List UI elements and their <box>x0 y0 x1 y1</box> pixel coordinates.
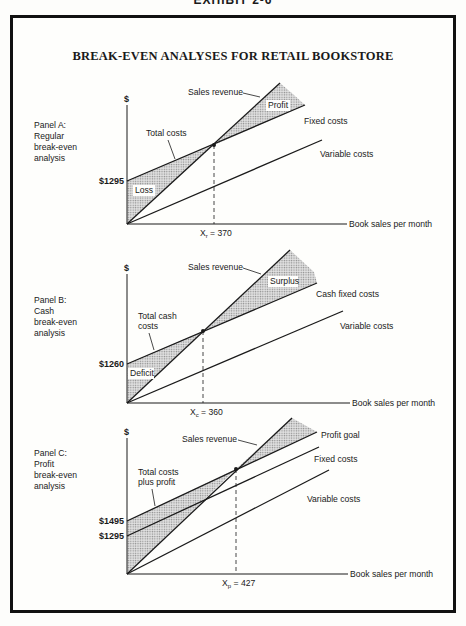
break-even-label: Xc = 360 <box>190 407 223 418</box>
panel-c-label-4: analysis <box>34 481 65 491</box>
panel-b: Panel B: Cash break-even analysis $ Book… <box>34 250 435 418</box>
panel-a-label-3: break-even <box>34 142 77 152</box>
x-axis-label: Book sales per month <box>349 219 432 229</box>
total-cash-costs-label-1: Total cash <box>138 311 177 321</box>
sales-revenue-label: Sales revenue <box>182 434 237 444</box>
y-intercept-label: $1295 <box>99 176 124 186</box>
y-intercept-label-profit: $1495 <box>99 516 124 526</box>
excess-region <box>236 418 317 469</box>
x-axis-label: Book sales per month <box>352 398 435 408</box>
fixed-costs-label: Fixed costs <box>314 454 357 464</box>
break-even-label: Xr = 370 <box>200 228 232 239</box>
sales-revenue-label: Sales revenue <box>188 87 243 97</box>
loss-region-label: Loss <box>135 185 153 195</box>
panel-a-label-2: Regular <box>34 131 64 141</box>
panel-b-label-3: break-even <box>34 317 77 327</box>
panel-b-label-2: Cash <box>34 306 54 316</box>
profit-region-label: Profit <box>268 100 289 110</box>
panel-b-label-1: Panel B: <box>34 295 67 305</box>
surplus-region-label: Surplus <box>270 276 299 286</box>
total-costs-plus-profit-label-1: Total costs <box>138 467 179 477</box>
variable-costs-label: Variable costs <box>307 494 360 504</box>
panel-a-label-1: Panel A: <box>34 120 66 130</box>
panel-c-label-3: break-even <box>34 470 77 480</box>
panel-a-label-4: analysis <box>34 153 65 163</box>
panel-c-label-2: Profit <box>34 459 55 469</box>
break-even-point <box>201 329 205 333</box>
total-costs-label: Total costs <box>146 128 187 138</box>
total-cash-costs-label-2: costs <box>138 321 158 331</box>
panel-c-label-1: Panel C: <box>34 448 67 458</box>
y-intercept-label-fixed: $1295 <box>99 531 124 541</box>
panel-b-label-4: analysis <box>34 328 65 338</box>
total-costs-line <box>127 105 305 181</box>
sales-revenue-line <box>127 83 280 224</box>
x-axis-label: Book sales per month <box>350 569 433 579</box>
y-intercept-label: $1260 <box>99 359 124 369</box>
profit-goal-label: Profit goal <box>321 430 360 440</box>
total-costs-plus-profit-label-2: plus profit <box>138 477 176 487</box>
panel-a: Panel A: Regular break-even analysis $ B… <box>34 83 432 239</box>
sales-revenue-label: Sales revenue <box>188 262 243 272</box>
y-axis-symbol: $ <box>124 263 129 273</box>
fixed-costs-line <box>127 447 319 536</box>
break-even-charts: Panel A: Regular break-even analysis $ B… <box>0 0 466 626</box>
deficit-region-label: Deficit <box>130 368 154 378</box>
y-axis-symbol: $ <box>124 427 129 437</box>
variable-costs-label: Variable costs <box>340 321 393 331</box>
break-even-point <box>212 143 216 147</box>
break-even-point <box>234 467 238 471</box>
y-axis-symbol: $ <box>124 94 129 104</box>
break-even-label: Xp = 427 <box>222 578 255 589</box>
fixed-costs-label: Fixed costs <box>304 116 347 126</box>
panel-c: Panel C: Profit break-even analysis $ Bo… <box>34 418 433 589</box>
cash-fixed-costs-label: Cash fixed costs <box>316 289 379 299</box>
variable-costs-label: Variable costs <box>320 149 373 159</box>
